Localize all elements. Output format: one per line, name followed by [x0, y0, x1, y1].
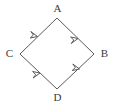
- edge-c-a-arrowhead-icon: [30, 32, 37, 39]
- edge-d-b-arrowhead-icon: [72, 64, 79, 71]
- edge-c-d-arrowhead-icon: [33, 72, 40, 79]
- edge-d-b-line: [57, 54, 94, 89]
- node-label-d: D: [52, 92, 63, 103]
- node-label-c: C: [4, 48, 15, 59]
- node-label-b: B: [99, 48, 110, 59]
- edge-c-a-line: [20, 18, 57, 54]
- edge-a-b: [57, 18, 94, 54]
- edge-c-a: [20, 18, 57, 54]
- edge-c-d: [20, 54, 57, 89]
- node-label-a: A: [52, 3, 63, 14]
- edge-c-d-line: [20, 54, 57, 89]
- diagram-canvas: A B C D: [0, 0, 113, 108]
- edge-d-b: [57, 54, 94, 89]
- edge-a-b-line: [57, 18, 94, 54]
- edge-a-b-arrowhead-icon: [71, 37, 78, 44]
